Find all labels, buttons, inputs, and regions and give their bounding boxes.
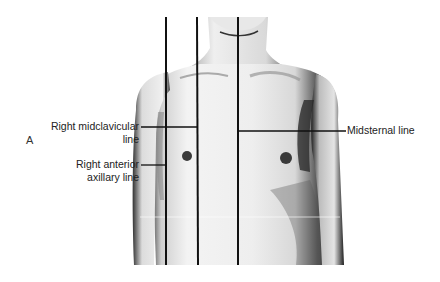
left-nipple bbox=[280, 152, 292, 164]
label-line-1: Right midclavicular bbox=[51, 120, 139, 133]
midclavicular-vertical-line bbox=[197, 17, 198, 265]
right-nipple bbox=[182, 151, 192, 161]
label-midsternal-line: Midsternal line bbox=[347, 124, 415, 137]
label-right-anterior-axillary-line: Right anterior axillary line bbox=[76, 158, 139, 184]
chest-landmarks-figure: A Right midclavicular line Right anterio… bbox=[0, 0, 440, 282]
label-line-2: axillary line bbox=[76, 171, 139, 184]
label-right-midclavicular-line: Right midclavicular line bbox=[51, 120, 139, 146]
panel-letter: A bbox=[26, 134, 33, 146]
label-line-2: line bbox=[51, 133, 139, 146]
label-line-1: Right anterior bbox=[76, 158, 139, 171]
